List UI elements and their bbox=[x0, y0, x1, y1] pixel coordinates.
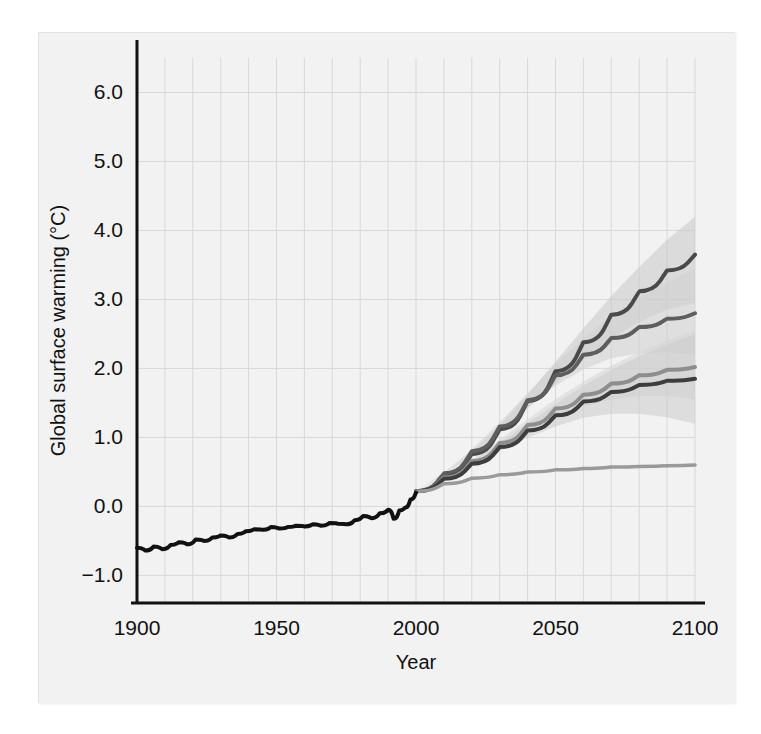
y-tick-label: 5.0 bbox=[94, 149, 123, 172]
x-tick-label: 1950 bbox=[253, 616, 300, 639]
x-tick-label: 1900 bbox=[114, 616, 161, 639]
x-axis-title: Year bbox=[396, 651, 437, 673]
y-tick-label: 4.0 bbox=[94, 218, 123, 241]
y-axis-title: Global surface warming (°C) bbox=[47, 205, 69, 456]
global-warming-projection-chart: 19001950200020502100−1.00.01.02.03.04.05… bbox=[39, 33, 736, 704]
x-tick-label: 2000 bbox=[393, 616, 440, 639]
y-tick-label: −1.0 bbox=[82, 563, 123, 586]
x-tick-label: 2100 bbox=[672, 616, 719, 639]
y-tick-label: 0.0 bbox=[94, 494, 123, 517]
y-tick-label: 3.0 bbox=[94, 287, 123, 310]
y-tick-label: 2.0 bbox=[94, 356, 123, 379]
figure-panel: 19001950200020502100−1.00.01.02.03.04.05… bbox=[38, 32, 735, 703]
y-tick-label: 6.0 bbox=[94, 80, 123, 103]
x-tick-label: 2050 bbox=[532, 616, 579, 639]
y-tick-label: 1.0 bbox=[94, 425, 123, 448]
